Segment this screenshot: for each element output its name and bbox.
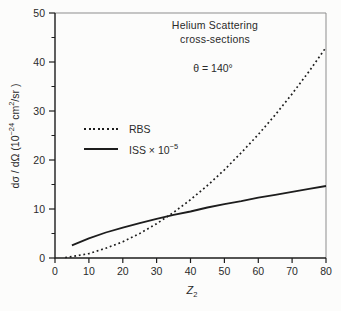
x-tick-label: 80 xyxy=(320,265,332,277)
y-tick-label: 10 xyxy=(33,203,45,215)
iss-solid-line-swatch xyxy=(84,148,118,150)
legend-label-iss: ISS × 10−5 xyxy=(129,142,178,156)
y-tick-label: 0 xyxy=(39,252,45,264)
chart-title-line2: cross-sections xyxy=(135,32,295,46)
chart-title: Helium Scattering cross-sections xyxy=(135,18,295,46)
y-tick-label: 50 xyxy=(33,7,45,19)
legend-item-rbs: RBS xyxy=(84,119,178,139)
x-tick-label: 20 xyxy=(117,265,129,277)
rbs-dotted-line-swatch xyxy=(84,128,118,130)
legend-label-rbs: RBS xyxy=(129,123,151,135)
legend: RBS ISS × 10−5 xyxy=(84,119,178,159)
x-tick-label: 0 xyxy=(52,265,58,277)
iss-curve xyxy=(72,186,326,245)
chart-title-line1: Helium Scattering xyxy=(135,18,295,32)
x-tick-label: 30 xyxy=(151,265,163,277)
legend-item-iss: ISS × 10−5 xyxy=(84,139,178,159)
y-tick-label: 20 xyxy=(33,154,45,166)
x-tick-label: 60 xyxy=(252,265,264,277)
x-tick-label: 40 xyxy=(185,265,197,277)
x-tick-label: 50 xyxy=(219,265,231,277)
y-tick-label: 30 xyxy=(33,105,45,117)
x-tick-label: 70 xyxy=(286,265,298,277)
x-tick-label: 10 xyxy=(83,265,95,277)
x-axis-label: Z2 xyxy=(178,284,206,299)
y-axis-label: dσ / dΩ (10−24 cm2/sr ) xyxy=(7,84,21,189)
figure-helium-scattering: 0102030405060708001020304050 Helium Scat… xyxy=(0,0,341,311)
y-tick-label: 40 xyxy=(33,56,45,68)
theta-annotation: θ = 140° xyxy=(133,62,293,74)
